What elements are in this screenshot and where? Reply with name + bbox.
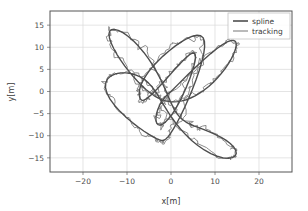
legend: spline tracking [228,13,290,39]
x-tick-label: 10 [210,177,220,186]
y-tick-label: 10 [34,43,44,52]
x-tick-label: 0 [169,177,174,186]
x-tick-label: 20 [254,177,264,186]
x-axis-title: x[m] [162,197,181,206]
x-tick-label: −10 [119,177,135,186]
trajectory-plot: −20−1001020 −15−10−5051015 x[m] y[m] spl… [0,0,308,211]
y-axis-title: y[m] [7,83,16,102]
y-tick-label: 5 [39,65,44,74]
chart-figure: −20−1001020 −15−10−5051015 x[m] y[m] spl… [0,0,308,211]
y-tick-label: −10 [28,131,44,140]
y-tick-label: 15 [34,21,44,30]
y-tick-label: −5 [33,109,44,118]
x-tick-label: −20 [75,177,91,186]
legend-label-spline: spline [252,17,275,26]
legend-label-tracking: tracking [252,27,283,36]
y-tick-label: 0 [39,87,44,96]
y-tick-label: −15 [28,154,44,163]
